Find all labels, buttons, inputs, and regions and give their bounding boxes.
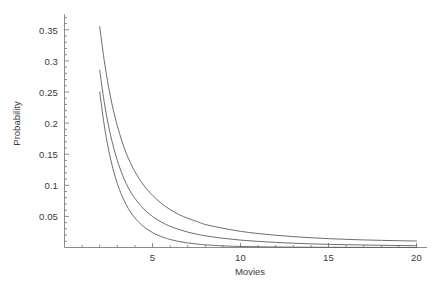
series-line-curve-middle (100, 70, 417, 245)
x-tick-label: 15 (323, 252, 334, 263)
plot-area (0, 0, 447, 291)
y-tick-label: 0.35 (20, 24, 58, 35)
data-series-group (100, 27, 417, 248)
x-tick-label: 20 (411, 252, 422, 263)
x-tick-label: 5 (150, 252, 155, 263)
y-tick-label: 0.3 (20, 55, 58, 66)
y-tick-label: 0.2 (20, 118, 58, 129)
series-line-curve-lower (100, 92, 417, 247)
tick-marks-group (65, 17, 417, 247)
chart-figure: 0.050.10.150.20.250.30.35 5101520 Probab… (0, 0, 447, 291)
series-line-curve-upper (100, 27, 417, 241)
x-axis-title: Movies (235, 266, 265, 277)
y-tick-label: 0.25 (20, 87, 58, 98)
x-tick-label: 10 (235, 252, 246, 263)
y-tick-label: 0.15 (20, 149, 58, 160)
y-tick-label: 0.1 (20, 180, 58, 191)
y-tick-label: 0.05 (20, 211, 58, 222)
y-axis-title: Probability (11, 84, 22, 164)
